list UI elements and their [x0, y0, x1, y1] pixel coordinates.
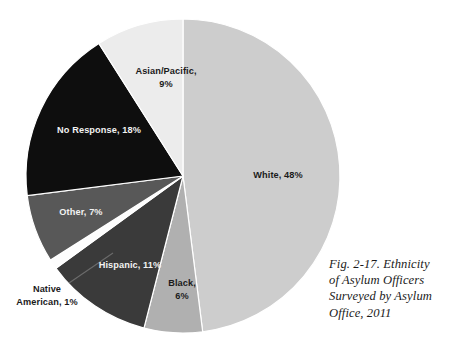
pie-label-no-response: No Response, 18% [57, 125, 141, 135]
pie-label-line: 6% [175, 291, 188, 301]
caption-line: Surveyed by Asylum [329, 288, 457, 304]
pie-label-white: White, 48% [253, 170, 303, 180]
pie-label-native-american: NativeAmerican, 1% [16, 284, 77, 307]
figure-caption: Fig. 2-17. Ethnicityof Asylum OfficersSu… [329, 256, 457, 321]
pie-label-line: 9% [159, 79, 172, 89]
pie-label-line: Asian/Pacific, [135, 66, 196, 76]
pie-label-line: American, 1% [16, 297, 77, 307]
caption-line: Fig. 2-17. Ethnicity [329, 256, 457, 272]
pie-label-line: White, 48% [253, 170, 303, 180]
pie-label-line: Other, 7% [59, 207, 102, 217]
pie-label-other: Other, 7% [59, 207, 102, 217]
caption-line: Office, 2011 [329, 305, 457, 321]
pie-label-line: Hispanic, 11% [99, 260, 162, 270]
pie-label-hispanic: Hispanic, 11% [99, 260, 162, 270]
pie-label-line: Black, [168, 278, 196, 288]
caption-line: of Asylum Officers [329, 272, 457, 288]
pie-label-line: Native [33, 284, 61, 294]
figure-container: White, 48%Black,6%Hispanic, 11%NativeAme… [0, 0, 459, 351]
pie-label-line: No Response, 18% [57, 125, 141, 135]
